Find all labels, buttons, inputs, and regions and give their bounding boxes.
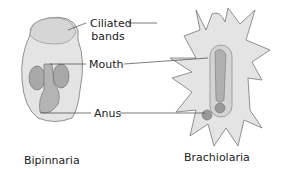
label-ciliated-line1: Ciliated [90,17,126,30]
label-anus: Anus [94,107,120,120]
brachiolaria-illustration [170,8,270,146]
label-mouth: Mouth [89,58,123,71]
bipinnaria-illustration [22,17,83,121]
larvae-diagram [0,0,294,169]
label-ciliated-line2: bands [90,30,126,43]
caption-bipinnaria: Bipinnaria [24,154,80,167]
label-ciliated-bands: Ciliated bands [90,17,126,43]
caption-brachiolaria: Brachiolaria [184,151,250,164]
